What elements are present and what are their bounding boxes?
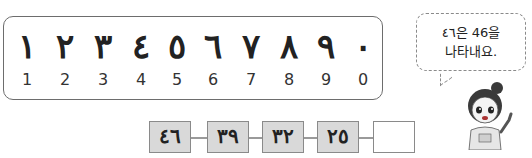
sequence-box-2: ٣٩ (207, 121, 249, 153)
western-numeral: 6 (198, 71, 228, 89)
arabic-numeral: ٨ (274, 27, 304, 65)
answer-box[interactable] (373, 121, 415, 153)
western-numeral: 9 (311, 71, 341, 89)
sequence-box-4: ٢٥ (317, 121, 359, 153)
speech-line-1: ٤٦은 46을 (417, 23, 525, 42)
speech-bubble: ٤٦은 46을 나타내요. (416, 13, 526, 71)
arabic-numeral: ٢ (50, 27, 80, 65)
arabic-numeral: ٦ (198, 27, 228, 65)
speech-line-2: 나타내요. (417, 42, 525, 61)
western-numeral: 7 (236, 71, 266, 89)
western-numeral: 1 (12, 71, 42, 89)
western-numeral: 2 (50, 71, 80, 89)
western-numeral: 4 (126, 71, 156, 89)
sequence-box-1: ٤٦ (149, 121, 191, 153)
western-numeral: 0 (348, 71, 378, 89)
arabic-numeral: ٣ (88, 27, 118, 65)
arabic-numeral: ٧ (236, 27, 266, 65)
western-numeral: 8 (274, 71, 304, 89)
arabic-numeral: ٤ (126, 27, 156, 65)
arabic-numeral: ٠ (348, 27, 378, 65)
numeral-reference-table: ١ 1 ٢ 2 ٣ 3 ٤ 4 ٥ 5 ٦ 6 ٧ 7 ٨ 8 ٩ 9 ٠ 0 (3, 16, 383, 100)
arabic-numeral: ٩ (311, 27, 341, 65)
arabic-numeral: ١ (12, 27, 42, 65)
girl-pointing-icon (457, 80, 517, 150)
western-numeral: 5 (162, 71, 192, 89)
sequence-box-3: ٣٢ (262, 121, 304, 153)
western-numeral: 3 (88, 71, 118, 89)
arabic-numeral: ٥ (162, 27, 192, 65)
